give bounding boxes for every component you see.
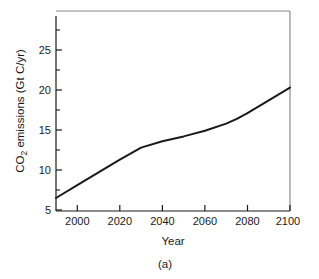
y-tick-label-10: 10 — [39, 164, 51, 176]
x-axis-major-ticks — [77, 205, 290, 211]
emissions-line-chart: 25 20 15 10 5 2000 2020 2040 2060 2080 2… — [0, 0, 319, 279]
x-axis-title: Year — [161, 235, 184, 247]
x-tick-label-2040: 2040 — [150, 215, 174, 227]
panel-caption: (a) — [158, 258, 172, 270]
y-axis-tick-labels: 25 20 15 10 5 — [39, 44, 51, 216]
figure-panel-a: 25 20 15 10 5 2000 2020 2040 2060 2080 2… — [0, 0, 319, 279]
y-tick-label-15: 15 — [39, 124, 51, 136]
x-tick-label-2020: 2020 — [108, 215, 132, 227]
y-axis-title-suffix: emissions (Gt C/yr) — [14, 49, 26, 151]
x-tick-label-2060: 2060 — [193, 215, 217, 227]
x-tick-label-2000: 2000 — [65, 215, 89, 227]
y-axis-title: CO2 emissions (Gt C/yr) — [14, 49, 29, 173]
y-axis-major-ticks — [56, 50, 62, 210]
plot-frame — [56, 11, 290, 211]
emissions-series-line — [56, 88, 290, 198]
svg-text:CO2 emissions (Gt C/yr): CO2 emissions (Gt C/yr) — [14, 49, 29, 173]
y-tick-label-25: 25 — [39, 44, 51, 56]
y-tick-label-5: 5 — [45, 204, 51, 216]
x-axis-tick-labels: 2000 2020 2040 2060 2080 2100 — [65, 215, 300, 227]
y-tick-label-20: 20 — [39, 84, 51, 96]
y-axis-title-prefix: CO — [14, 155, 26, 172]
x-tick-label-2080: 2080 — [235, 215, 259, 227]
x-tick-label-2100: 2100 — [276, 215, 300, 227]
